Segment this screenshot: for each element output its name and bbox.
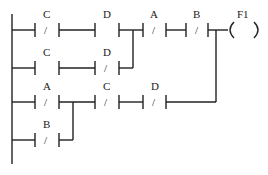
rung-1: C / D A / B / F1 xyxy=(12,8,258,38)
contact-c-nc: C / xyxy=(95,80,119,109)
svg-text:D: D xyxy=(151,80,159,92)
rung-4: B / xyxy=(12,102,73,147)
svg-text:/: / xyxy=(195,24,199,36)
coil-f1: F1 xyxy=(230,8,258,38)
rung-2: C D / xyxy=(12,30,133,75)
svg-text:/: / xyxy=(44,96,48,108)
contact-d-no: D xyxy=(95,8,119,37)
svg-text:D: D xyxy=(103,8,111,20)
contact-a-nc: A / xyxy=(143,8,166,37)
svg-text:D: D xyxy=(103,46,111,58)
ladder-diagram: C / D A / B / F1 xyxy=(0,0,268,175)
svg-text:A: A xyxy=(43,80,51,92)
svg-text:C: C xyxy=(103,80,110,92)
svg-text:/: / xyxy=(152,96,156,108)
svg-text:A: A xyxy=(150,8,158,20)
svg-text:B: B xyxy=(43,118,50,130)
svg-text:/: / xyxy=(152,24,156,36)
svg-text:B: B xyxy=(193,8,200,20)
contact-c-nc: C / xyxy=(35,8,59,37)
contact-c-no: C xyxy=(35,46,59,75)
contact-d-nc: D / xyxy=(95,46,119,75)
svg-text:/: / xyxy=(44,24,48,36)
svg-text:/: / xyxy=(44,134,48,146)
contact-b-nc: B / xyxy=(186,8,208,37)
contact-a-nc: A / xyxy=(35,80,59,109)
svg-text:/: / xyxy=(104,62,108,74)
svg-text:F1: F1 xyxy=(237,8,249,20)
svg-text:C: C xyxy=(43,46,50,58)
rung-3: A / C / D / xyxy=(12,30,216,109)
svg-text:/: / xyxy=(104,96,108,108)
contact-b-nc: B / xyxy=(35,118,59,147)
contact-d-nc: D / xyxy=(143,80,166,109)
svg-text:C: C xyxy=(43,8,50,20)
